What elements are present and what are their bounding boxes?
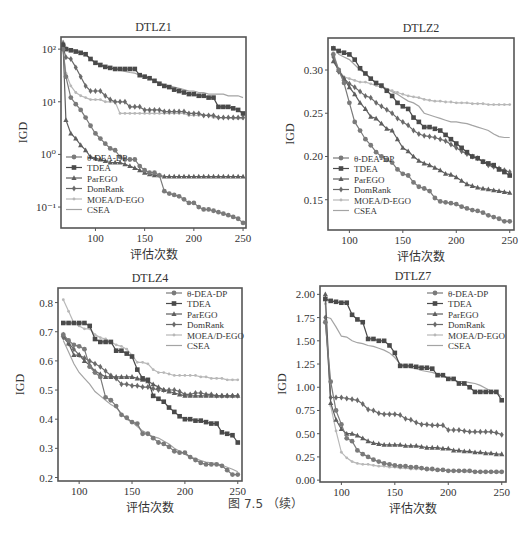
series-marker — [502, 170, 507, 175]
series-marker — [61, 321, 66, 326]
series-marker — [489, 469, 494, 474]
y-tick-label: 0.3 — [39, 442, 53, 454]
series-marker — [162, 189, 167, 194]
series-marker — [214, 421, 219, 426]
series-marker — [367, 463, 370, 466]
series-marker — [345, 456, 348, 459]
series-marker — [211, 208, 216, 213]
series-marker — [89, 98, 92, 101]
series-marker — [125, 348, 128, 351]
series-marker — [241, 111, 246, 116]
legend-marker — [339, 156, 344, 161]
legend-label: θ-DEA-DP — [448, 289, 488, 299]
y-axis-label: IGD — [13, 374, 27, 396]
series-marker — [486, 161, 491, 166]
series-marker — [391, 89, 394, 92]
series-marker — [231, 378, 234, 381]
series-marker — [419, 466, 424, 471]
series-marker — [83, 52, 88, 57]
series-marker — [193, 458, 198, 463]
series-marker — [497, 216, 502, 221]
series-marker — [471, 102, 474, 105]
series-marker — [446, 468, 451, 473]
series-marker — [451, 468, 456, 473]
legend-label: ParEGO — [448, 310, 479, 320]
legend-label: ParEGO — [87, 174, 118, 184]
x-tick-label: 250 — [501, 234, 518, 246]
series-marker — [215, 377, 218, 380]
y-tick-label: 0.2 — [39, 472, 53, 484]
series-marker — [226, 115, 230, 121]
legend-marker — [172, 291, 177, 296]
series-marker — [207, 112, 211, 118]
x-axis-label: 评估次数 — [130, 247, 178, 262]
series-marker — [450, 101, 453, 104]
series-marker — [167, 444, 172, 449]
series-marker — [459, 204, 464, 209]
series-marker — [77, 344, 82, 349]
series-marker — [78, 51, 83, 56]
series-marker — [83, 115, 88, 120]
series-marker — [401, 104, 406, 109]
series-marker — [363, 137, 368, 142]
series-marker — [459, 178, 464, 183]
series-marker — [508, 103, 511, 106]
series-marker — [406, 107, 411, 112]
series-marker — [135, 421, 140, 426]
series-marker — [114, 348, 119, 353]
series-marker — [433, 127, 438, 132]
series-marker — [183, 417, 188, 422]
series-marker — [146, 378, 151, 383]
series-marker — [462, 468, 467, 473]
series-marker — [368, 143, 373, 148]
series-marker — [201, 93, 206, 98]
legend-label: ParEGO — [354, 175, 385, 185]
series-marker — [355, 397, 359, 403]
series-marker — [403, 464, 408, 469]
series-marker — [62, 298, 65, 301]
series-marker — [225, 468, 230, 473]
series-marker — [137, 164, 142, 169]
legend-marker — [433, 301, 438, 306]
series-marker — [98, 63, 103, 68]
series-marker — [220, 430, 225, 435]
series-marker — [209, 421, 214, 426]
series-marker — [494, 430, 498, 436]
series-marker — [209, 462, 214, 467]
series-marker — [77, 321, 82, 326]
series-marker — [390, 94, 395, 99]
series-marker — [119, 348, 124, 353]
series-marker — [398, 464, 403, 469]
series-marker — [146, 362, 149, 365]
legend-marker — [172, 322, 176, 328]
legend-marker — [173, 334, 176, 337]
series-marker — [425, 365, 430, 370]
series-marker — [231, 106, 236, 111]
series-marker — [93, 88, 97, 94]
legend-label: DomRank — [87, 184, 124, 194]
series-marker — [68, 95, 73, 100]
series-marker — [449, 137, 454, 142]
series-marker — [182, 90, 187, 95]
series-marker — [336, 49, 341, 54]
series-marker — [74, 91, 77, 94]
series-marker — [328, 299, 333, 304]
series-marker — [241, 220, 246, 225]
legend-label: θ-DEA-DP — [87, 153, 127, 163]
series-marker — [221, 115, 225, 121]
series-marker — [465, 150, 470, 155]
series-marker — [441, 422, 445, 428]
series-marker — [142, 168, 147, 173]
series-marker — [499, 398, 504, 403]
series-marker — [216, 115, 220, 121]
legend-label: ParEGO — [187, 310, 218, 320]
series-marker — [236, 115, 240, 121]
series-marker — [118, 67, 123, 72]
series-marker — [411, 180, 416, 185]
series-marker — [363, 71, 368, 76]
series-marker — [69, 85, 72, 88]
series-marker — [376, 459, 381, 464]
series-marker — [108, 66, 113, 71]
series-marker — [236, 108, 241, 113]
chart-dtlz4: DTLZ41001502002500.80.70.60.50.40.30.2评估… — [13, 271, 247, 515]
